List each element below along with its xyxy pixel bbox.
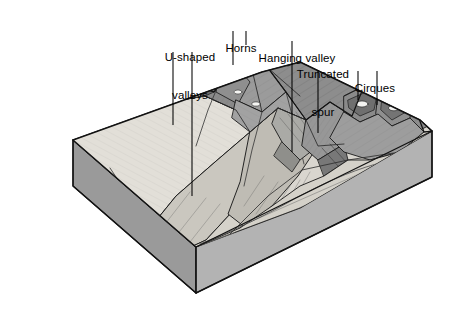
label-line: Cirques bbox=[355, 82, 395, 95]
label-line: spur bbox=[297, 106, 349, 119]
label-u-shaped-valleys: U-shaped valleys bbox=[165, 26, 216, 126]
label-horns: Horns bbox=[225, 17, 256, 80]
label-line: valleys bbox=[165, 89, 216, 102]
label-line: Truncated bbox=[297, 68, 349, 81]
figure-canvas: U-shaped valleys Horns Hanging valley Tr… bbox=[0, 0, 458, 309]
label-cirques: Cirques bbox=[355, 57, 395, 120]
label-line: Horns bbox=[225, 42, 256, 55]
label-line: U-shaped bbox=[165, 51, 216, 64]
label-truncated-spur: Truncated spur bbox=[297, 43, 349, 143]
